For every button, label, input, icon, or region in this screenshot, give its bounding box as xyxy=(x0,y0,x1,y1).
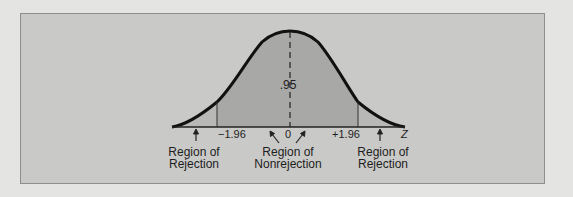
axis-label-z: Z xyxy=(400,128,409,140)
arrow-right-rejection xyxy=(378,129,383,141)
area-label: .95 xyxy=(280,78,297,92)
arrow-left-rejection xyxy=(194,129,199,141)
arrow-nonrejection-right xyxy=(296,131,305,143)
region-right-line2: Rejection xyxy=(358,157,408,171)
tick-label-zero: 0 xyxy=(285,128,291,140)
tick-label-pos196: +1.96 xyxy=(332,128,360,140)
tick-label-neg196: −1.96 xyxy=(218,128,246,140)
region-left-line2: Rejection xyxy=(169,157,219,171)
arrow-nonrejection-left xyxy=(270,131,279,143)
normal-distribution-diagram: .95 −1.96 0 +1.96 Z Region of Rejection … xyxy=(0,0,573,197)
region-center-line2: Nonrejection xyxy=(254,157,321,171)
